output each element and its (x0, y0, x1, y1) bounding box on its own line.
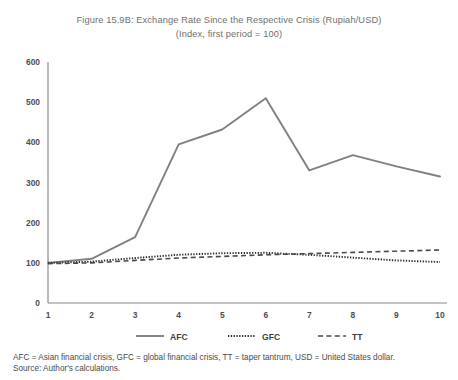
x-tick-label: 9 (394, 310, 399, 320)
figure-footnote: AFC = Asian financial crisis, GFC = glob… (13, 352, 453, 375)
x-tick-label: 6 (263, 310, 268, 320)
footnote-abbreviations: AFC = Asian financial crisis, GFC = glob… (13, 352, 453, 363)
y-tick-label: 300 (26, 178, 40, 188)
legend-label-tt: TT (352, 332, 363, 342)
y-tick-label: 0 (35, 298, 40, 308)
x-tick-label: 7 (307, 310, 312, 320)
x-tick-label: 1 (46, 310, 51, 320)
x-axis-tick-labels: 1 2 3 4 5 6 7 8 9 10 (46, 310, 445, 320)
chart-legend: AFC GFC TT (136, 332, 363, 342)
series-line-afc (48, 98, 440, 263)
figure-container: Figure 15.9B: Exchange Rate Since the Re… (0, 0, 458, 380)
y-tick-label: 600 (26, 57, 40, 67)
x-tick-label: 8 (351, 310, 356, 320)
x-tick-label: 4 (176, 310, 181, 320)
y-tick-label: 200 (26, 218, 40, 228)
x-tick-label: 2 (89, 310, 94, 320)
x-tick-label: 3 (133, 310, 138, 320)
y-axis-tick-labels: 0 100 200 300 400 500 600 (26, 57, 40, 308)
y-tick-label: 100 (26, 258, 40, 268)
line-chart-plot: 0 100 200 300 400 500 600 1 2 3 4 5 6 7 … (0, 0, 458, 352)
legend-label-afc: AFC (170, 332, 188, 342)
data-series-group (48, 98, 440, 263)
x-tick-label: 5 (220, 310, 225, 320)
x-tick-label: 10 (435, 310, 445, 320)
y-tick-label: 500 (26, 97, 40, 107)
legend-label-gfc: GFC (262, 332, 280, 342)
y-tick-label: 400 (26, 137, 40, 147)
footnote-source: Source: Author's calculations. (13, 363, 453, 374)
